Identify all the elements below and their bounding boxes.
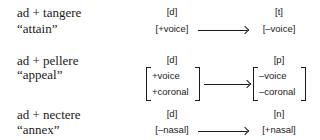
right-bracket [301, 67, 306, 101]
feature-coronal: +coronal [152, 86, 189, 97]
output-features: [+nasal] [262, 124, 296, 135]
feature-coronal: –coronal [259, 86, 295, 97]
feature-voice: +voice [152, 70, 180, 81]
right-arrow-icon [198, 30, 247, 31]
left-bracket [253, 67, 258, 101]
output-segment: [p] [274, 54, 285, 65]
right-arrow-icon [198, 131, 247, 132]
output-feature-matrix: –voice –coronal [253, 67, 306, 101]
output-features: [–voice] [263, 23, 296, 34]
input-segment: [d] [167, 6, 178, 17]
gloss: “appeal” [17, 67, 62, 83]
right-arrow-icon [204, 84, 249, 85]
gloss: “attain” [17, 21, 57, 37]
latin-form: ad + tangere [17, 5, 81, 21]
input-features: [+voice] [155, 23, 188, 34]
latin-form: ad + nectere [17, 107, 81, 123]
output-segment: [n] [274, 108, 285, 119]
input-features: [–nasal] [155, 124, 188, 135]
right-bracket [195, 67, 200, 101]
gloss: “annex” [17, 122, 60, 138]
output-segment: [t] [275, 6, 283, 17]
input-feature-matrix: +voice +coronal [146, 67, 200, 101]
feature-voice: –voice [259, 70, 286, 81]
left-bracket [146, 67, 151, 101]
input-segment: [d] [167, 108, 178, 119]
input-segment: [d] [167, 54, 178, 65]
